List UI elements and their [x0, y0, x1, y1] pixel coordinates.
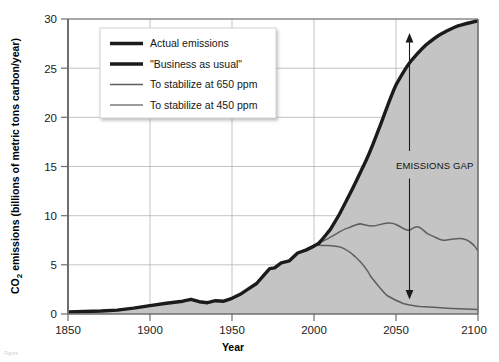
- emissions-chart: EMISSIONS GAP 30 25 20 15 10 5 0: [0, 0, 499, 362]
- ytick-label-25: 25: [44, 63, 57, 75]
- legend-label-actual-emissions: Actual emissions: [150, 37, 229, 49]
- figure-caption: Figure: [4, 350, 18, 356]
- y-axis-ticks: [61, 19, 68, 314]
- y-axis-title-pre: CO: [9, 278, 21, 294]
- x-axis-tick-labels: 1850 1900 1950 2000 2050 2100: [55, 324, 487, 336]
- legend-label-450ppm: To stabilize at 450 ppm: [150, 99, 258, 111]
- y-axis-title: CO2 emissions (billions of metric tons c…: [9, 38, 24, 294]
- chart-legend: Actual emissions "Business as usual" To …: [100, 28, 276, 118]
- xtick-label-1850: 1850: [55, 324, 81, 336]
- xtick-label-2050: 2050: [383, 324, 409, 336]
- legend-label-650ppm: To stabilize at 650 ppm: [150, 78, 258, 90]
- xtick-label-1900: 1900: [137, 324, 163, 336]
- ytick-label-15: 15: [44, 161, 57, 173]
- x-axis-title: Year: [222, 341, 244, 353]
- x-axis-ticks: [68, 314, 478, 321]
- ytick-label-10: 10: [44, 210, 57, 222]
- legend-label-business-as-usual: "Business as usual": [150, 58, 242, 70]
- ytick-label-0: 0: [51, 308, 57, 320]
- figure-container: EMISSIONS GAP 30 25 20 15 10 5 0: [0, 0, 499, 362]
- y-axis-tick-labels: 30 25 20 15 10 5 0: [44, 13, 57, 320]
- xtick-label-1950: 1950: [219, 324, 245, 336]
- xtick-label-2000: 2000: [301, 324, 327, 336]
- ytick-label-5: 5: [51, 259, 57, 271]
- ytick-label-30: 30: [44, 13, 57, 25]
- y-axis-title-post: emissions (billions of metric tons carbo…: [9, 38, 21, 274]
- ytick-label-20: 20: [44, 112, 57, 124]
- emissions-gap-label: EMISSIONS GAP: [396, 160, 473, 171]
- xtick-label-2100: 2100: [461, 324, 487, 336]
